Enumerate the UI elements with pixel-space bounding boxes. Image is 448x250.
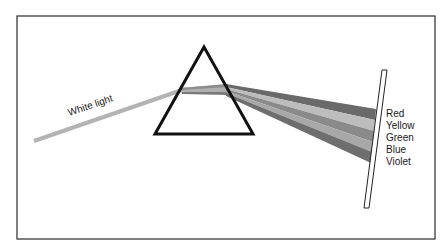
spectrum-labels: Red Yellow Green Blue Violet <box>386 108 415 168</box>
label-green: Green <box>386 132 415 144</box>
prism-dispersion-diagram <box>0 0 448 250</box>
internal-beam <box>180 84 228 95</box>
label-red: Red <box>386 108 415 120</box>
label-violet: Violet <box>386 156 415 168</box>
label-blue: Blue <box>386 144 415 156</box>
label-yellow: Yellow <box>386 120 415 132</box>
